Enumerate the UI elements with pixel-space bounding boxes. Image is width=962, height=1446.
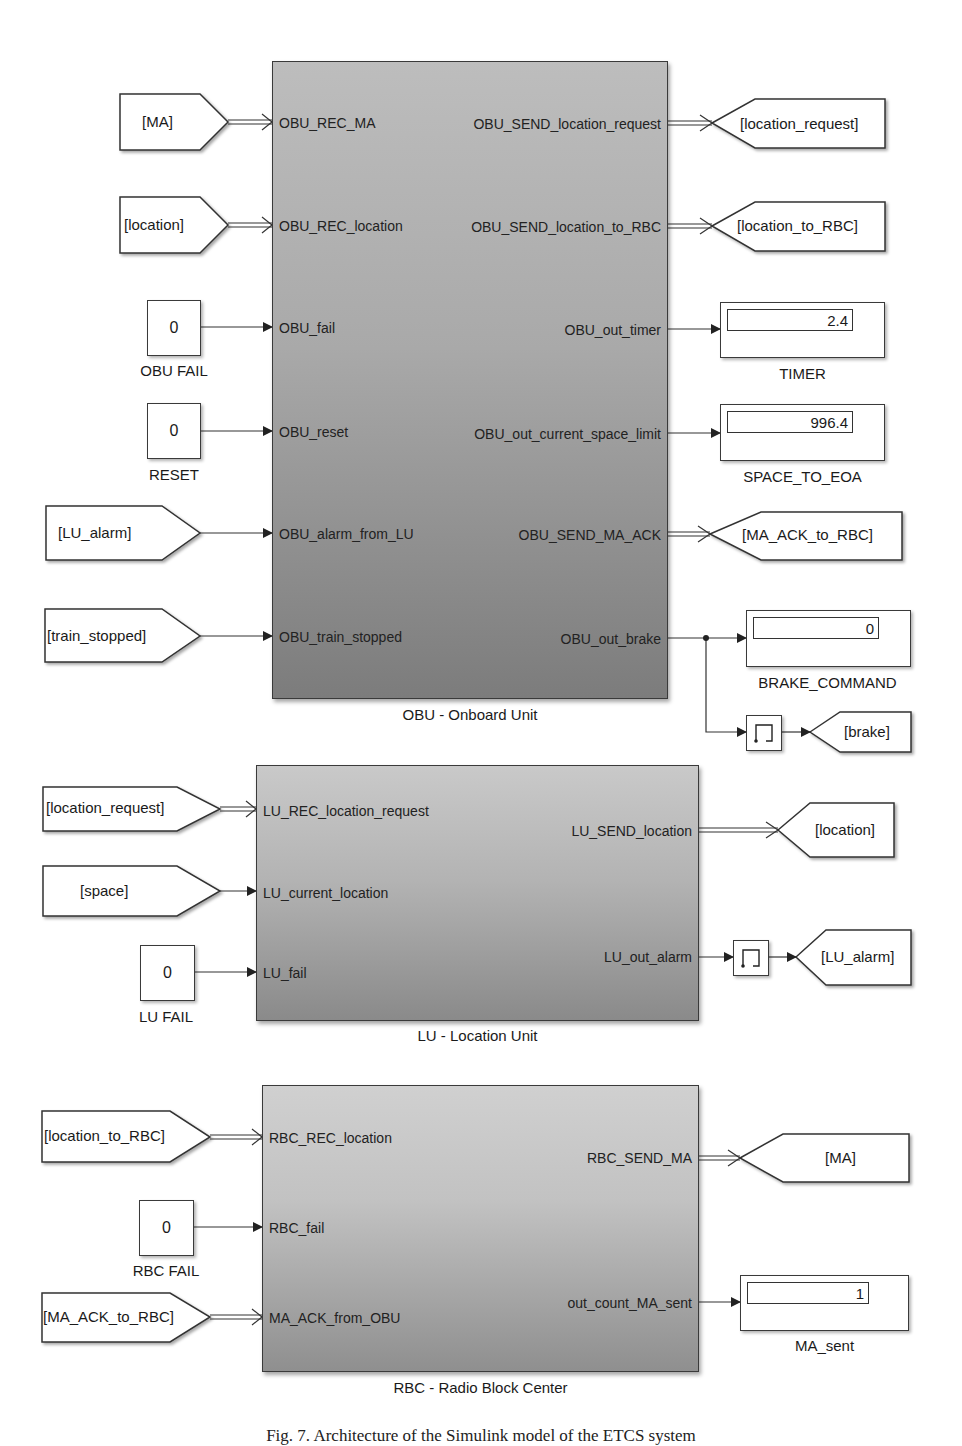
obu-caption: OBU - Onboard Unit [272,706,668,723]
figure-caption: Fig. 7. Architecture of the Simulink mod… [0,1426,962,1446]
rbc-in-port-fail: RBC_fail [269,1220,324,1236]
constant-label-lu-fail: LU FAIL [110,1008,222,1025]
from-tag-lu-alarm-label[interactable]: [LU_alarm] [58,525,131,541]
display-block-ma-sent[interactable]: 1 [740,1275,909,1331]
step-hold-icon [734,941,768,975]
rbc-out-port-count-ma-sent: out_count_MA_sent [567,1295,692,1311]
goto-tag-ma-ack-label[interactable]: [MA_ACK_to_RBC] [742,527,873,543]
goto-tag-lu-alarm-label[interactable]: [LU_alarm] [821,949,894,965]
lu-out-port-send-location: LU_SEND_location [571,823,692,839]
constant-label-obu-fail: OBU FAIL [118,362,230,379]
display-block-timer[interactable]: 2.4 [720,302,885,358]
constant-block-reset[interactable]: 0 [147,403,201,459]
goto-tag-brake-label[interactable]: [brake] [844,724,890,740]
rbc-in-port-ma-ack-from-obu: MA_ACK_from_OBU [269,1310,400,1326]
display-label-brake-command: BRAKE_COMMAND [740,674,915,691]
from-tag-space [43,866,220,916]
obu-in-port-rec-location: OBU_REC_location [279,218,403,234]
branch-point [703,635,709,641]
rbc-in-port-rec-location: RBC_REC_location [269,1130,392,1146]
from-tag-ma-ack-label[interactable]: [MA_ACK_to_RBC] [43,1309,174,1325]
lu-in-port-current-location: LU_current_location [263,885,388,901]
constant-label-reset: RESET [118,466,230,483]
display-value-brake-command: 0 [753,617,879,639]
obu-out-port-brake: OBU_out_brake [561,631,661,647]
lu-out-port-alarm: LU_out_alarm [604,949,692,965]
from-tag-ma [120,94,228,150]
from-tag-location-request-label[interactable]: [location_request] [46,800,164,816]
obu-in-port-alarm-from-lu: OBU_alarm_from_LU [279,526,414,542]
goto-tag-location-request-label[interactable]: [location_request] [740,116,858,132]
obu-out-port-current-space-limit: OBU_out_current_space_limit [474,426,661,442]
from-tag-space-label[interactable]: [space] [80,883,128,899]
obu-in-port-train-stopped: OBU_train_stopped [279,629,402,645]
obu-in-port-reset: OBU_reset [279,424,348,440]
from-tag-ma-label[interactable]: [MA] [142,114,173,130]
from-tag-location-label[interactable]: [location] [124,217,184,233]
display-block-brake-command[interactable]: 0 [746,610,911,667]
display-block-space-to-eoa[interactable]: 996.4 [720,404,885,461]
lu-in-port-rec-location-request: LU_REC_location_request [263,803,429,819]
obu-out-port-send-location-to-rbc: OBU_SEND_location_to_RBC [471,219,661,235]
obu-out-port-timer: OBU_out_timer [565,322,661,338]
goto-tag-location-to-rbc-label[interactable]: [location_to_RBC] [737,218,858,234]
display-value-ma-sent: 1 [747,1282,869,1304]
rbc-out-port-send-ma: RBC_SEND_MA [587,1150,692,1166]
obu-out-port-send-ma-ack: OBU_SEND_MA_ACK [519,527,661,543]
obu-in-port-fail: OBU_fail [279,320,335,336]
lu-caption: LU - Location Unit [256,1027,699,1044]
lu-subsystem[interactable]: LU_REC_location_request LU_current_locat… [256,765,699,1021]
obu-in-port-rec-ma: OBU_REC_MA [279,115,375,131]
constant-label-rbc-fail: RBC FAIL [110,1262,222,1279]
step-hold-icon [747,716,781,750]
display-label-space-to-eoa: SPACE_TO_EOA [720,468,885,485]
constant-block-lu-fail[interactable]: 0 [140,945,195,1001]
display-label-ma-sent: MA_sent [740,1337,909,1354]
from-tag-location-to-rbc-label[interactable]: [location_to_RBC] [44,1128,165,1144]
zero-order-hold-block-brake[interactable] [746,715,782,751]
lu-in-port-fail: LU_fail [263,965,307,981]
goto-tag-ma-label[interactable]: [MA] [825,1150,856,1166]
rbc-caption: RBC - Radio Block Center [262,1379,699,1396]
constant-block-rbc-fail[interactable]: 0 [139,1200,194,1256]
display-value-timer: 2.4 [727,309,853,331]
display-value-space-to-eoa: 996.4 [727,411,853,433]
obu-out-port-send-location-request: OBU_SEND_location_request [473,116,661,132]
display-label-timer: TIMER [720,365,885,382]
obu-subsystem[interactable]: OBU_REC_MA OBU_REC_location OBU_fail OBU… [272,61,668,699]
from-tag-train-stopped-label[interactable]: [train_stopped] [47,628,146,644]
goto-tag-location-label[interactable]: [location] [815,822,875,838]
rbc-subsystem[interactable]: RBC_REC_location RBC_fail MA_ACK_from_OB… [262,1085,699,1372]
constant-block-obu-fail[interactable]: 0 [147,300,201,356]
zero-order-hold-block-lu-alarm[interactable] [733,940,769,976]
